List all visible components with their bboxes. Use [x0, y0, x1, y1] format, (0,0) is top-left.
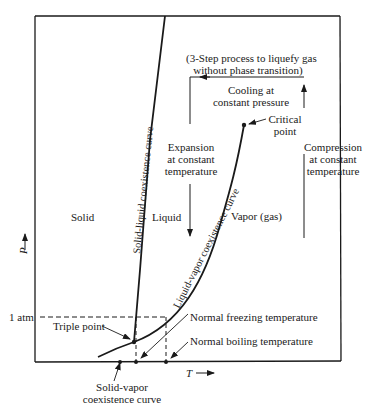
triple-point-label: Triple point	[53, 320, 105, 332]
cooling-label: Cooling at constant pressure	[208, 84, 294, 108]
cooling-label-line1: Cooling at	[208, 84, 294, 96]
process-title-line1: (3-Step process to liquefy gas	[186, 52, 310, 64]
compression-label: Compression at constant temperature	[304, 141, 362, 177]
solid-vapor-curve-label: Solid-vapor coexistence curve	[74, 381, 170, 405]
one-atm-label: 1 atm	[9, 311, 34, 323]
critical-label-line1: Critical	[263, 113, 307, 125]
normal-boiling-label: Normal boiling temperature	[190, 335, 313, 347]
t-axis-label: T	[186, 367, 192, 379]
compression-label-line2: at constant	[304, 153, 362, 165]
freezing-temp-dot	[134, 360, 138, 364]
solid-vapor-label-line1: Solid-vapor	[74, 381, 170, 393]
expansion-label-line2: at constant	[160, 153, 222, 165]
compression-label-line1: Compression	[304, 141, 362, 153]
expansion-label-line3: temperature	[160, 165, 222, 177]
critical-point-label: Critical point	[263, 113, 307, 137]
vapor-region-label: Vapor (gas)	[231, 210, 282, 222]
critical-label-line2: point	[263, 125, 307, 137]
solid-vapor-curve	[98, 342, 134, 357]
p-axis-label: P	[17, 247, 29, 254]
liquid-region-label: Liquid	[152, 211, 181, 223]
expansion-label-line1: Expansion	[160, 141, 222, 153]
boiling-temp-dot	[164, 360, 168, 364]
compression-label-line3: temperature	[304, 165, 362, 177]
solid-vapor-label-line2: coexistence curve	[74, 393, 170, 405]
boiling-arrow	[171, 342, 188, 358]
normal-freezing-label: Normal freezing temperature	[190, 311, 318, 323]
solid-region-label: Solid	[71, 211, 94, 223]
process-title: (3-Step process to liquefy gas without p…	[186, 52, 310, 76]
triple-point-dot	[132, 340, 136, 344]
cooling-label-line2: constant pressure	[208, 96, 294, 108]
critical-point-dot	[242, 123, 246, 127]
expansion-label: Expansion at constant temperature	[160, 141, 222, 177]
triple-point-arrow	[102, 326, 130, 339]
process-title-line2: without phase transition)	[186, 64, 310, 76]
solid-vapor-arrow	[114, 363, 120, 381]
